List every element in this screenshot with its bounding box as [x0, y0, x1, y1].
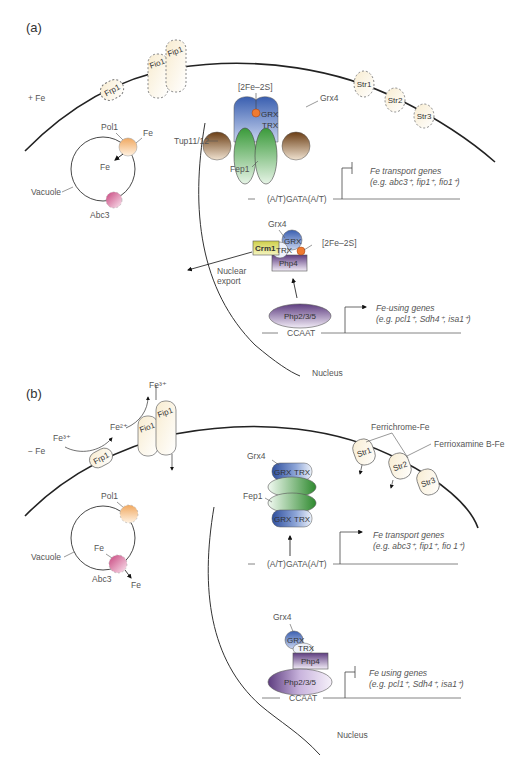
pol1-transporter-a	[119, 138, 137, 156]
grx4-label-a2: Grx4	[268, 219, 287, 229]
fe-s-cluster-icon	[252, 109, 260, 117]
php4-complex-a: Php4 Crm1 GRX TRX	[253, 230, 307, 271]
str3-transporter: Str3	[414, 104, 434, 128]
gata-motif-a: (A/T)GATA(A/T)	[267, 194, 327, 204]
abc3-transporter-b	[109, 555, 127, 573]
fep1-label-b: Fep1	[243, 491, 263, 501]
nucleus-label-b: Nucleus	[337, 730, 368, 740]
pol1-label-a: Pol1	[101, 122, 118, 132]
fe-outside-label-a: Fe	[143, 128, 153, 138]
fe2-ion-label: Fe²⁺	[110, 422, 128, 432]
vacuole-label-b: Vacuole	[31, 552, 61, 562]
gata-motif-b: (A/T)GATA(A/T)	[267, 559, 327, 569]
plasma-membrane-b	[25, 426, 478, 528]
php4-complex-b: GRX TRX Php4	[285, 631, 328, 669]
abc3-transporter-a	[106, 192, 122, 208]
svg-text:TRX: TRX	[294, 515, 311, 524]
condition-plus-fe: + Fe	[28, 93, 46, 103]
repression-symbol-b	[345, 672, 355, 698]
vacuole-label-a: Vacuole	[31, 187, 61, 197]
activation-arrow-a	[345, 307, 366, 333]
fe-using-examples-a: (e.g. pcl1⁺, Sdh4⁺, isa1⁺)	[376, 314, 471, 324]
nuclear-envelope-b	[208, 507, 320, 755]
fe-transport-genes-a: Fe transport genes	[370, 166, 442, 176]
condition-minus-fe: − Fe	[28, 446, 46, 456]
svg-text:Php2/3/5: Php2/3/5	[284, 312, 317, 321]
abc3-label-a: Abc3	[90, 210, 110, 220]
svg-text:TRX: TRX	[294, 468, 311, 477]
svg-text:Php4: Php4	[279, 259, 298, 268]
fe-transport-examples-b: (e.g. abc3⁺, fip1⁺, fio 1⁺)	[373, 541, 465, 551]
fio1-transporter-b: Fio1	[138, 416, 158, 456]
cluster-label-a: [2Fe–2S]	[238, 82, 273, 92]
panel-b: (b) − Fe Fe³⁺ Fe²⁺ Fe³⁺ Frp1 Fio1 Fip1	[25, 380, 505, 755]
nucleus-label-a: Nucleus	[312, 368, 343, 378]
svg-text:TRX: TRX	[298, 644, 315, 653]
svg-text:TRX: TRX	[262, 121, 279, 130]
fe-out-label-b: Fe	[131, 580, 141, 590]
abc3-label-b: Abc3	[92, 574, 112, 584]
fio1-transporter: Fio1	[148, 54, 168, 98]
fe3-ion-label: Fe³⁺	[53, 433, 71, 443]
svg-text:GRX: GRX	[284, 237, 302, 246]
repression-symbol-a	[342, 168, 352, 199]
fep1-label-a: Fep1	[230, 164, 250, 174]
svg-text:Crm1: Crm1	[255, 244, 276, 253]
str1-transporter: Str1	[354, 71, 374, 97]
fep1-complex-a: GRX TRX	[203, 97, 310, 184]
svg-text:Str2: Str2	[388, 96, 403, 105]
fe3-top-label: Fe³⁺	[149, 380, 167, 390]
tup11-12-right	[282, 132, 310, 160]
panel-a: (a) + Fe Frp1 Fio1 Fip1 Str1 Str2	[25, 20, 495, 378]
svg-text:Php4: Php4	[301, 657, 320, 666]
fe-using-genes-a: Fe-using genes	[376, 303, 435, 313]
grx4-label-b2: Grx4	[273, 612, 292, 622]
svg-text:GRX: GRX	[261, 110, 279, 119]
iron-regulation-diagram: (a) + Fe Frp1 Fio1 Fip1 Str1 Str2	[0, 0, 523, 781]
svg-text:GRX: GRX	[274, 515, 292, 524]
ccaat-motif-a: CCAAT	[287, 328, 315, 338]
fep1-right	[255, 128, 277, 184]
activation-arrow-b	[340, 532, 362, 564]
ccaat-motif-b: CCAAT	[289, 693, 317, 703]
ferrioxamine-label: Ferrioxamine B-Fe	[434, 439, 505, 449]
svg-text:export: export	[217, 276, 241, 286]
fe-using-examples-b: (e.g. pcl1⁺, Sdh4⁺, isa1⁺)	[369, 679, 464, 689]
panel-b-label: (b)	[26, 386, 42, 401]
pol1-transporter-b	[120, 505, 138, 523]
cluster-label-a2: [2Fe–2S]	[322, 238, 357, 248]
ferrichrome-label: Ferrichrome-Fe	[371, 422, 430, 432]
str3-transporter-b: Str3	[414, 466, 442, 497]
fep1-complex-b: GRX TRX GRX TRX	[268, 463, 316, 527]
fe-transport-genes-b: Fe transport genes	[373, 530, 445, 540]
svg-text:Str3: Str3	[417, 112, 432, 121]
str2-transporter: Str2	[385, 88, 405, 112]
fip1-transporter: Fip1	[166, 40, 186, 92]
fe-s-cluster-icon-a2	[297, 247, 305, 255]
nuclear-export-label: Nuclear	[217, 266, 246, 276]
fe-inside-label-b: Fe	[94, 543, 104, 553]
grx4-label-a: Grx4	[320, 93, 339, 103]
fe-inside-label-a: Fe	[100, 162, 110, 172]
panel-a-label: (a)	[26, 20, 42, 35]
fe-transport-examples-a: (e.g. abc3⁺, fip1⁺, fio1⁺)	[370, 177, 460, 187]
frp1-transporter: Frp1	[97, 76, 127, 103]
svg-text:Php2/3/5: Php2/3/5	[284, 678, 317, 687]
tup-label-a: Tup11/12	[174, 136, 209, 146]
svg-text:TRX: TRX	[276, 246, 293, 255]
svg-text:Str1: Str1	[357, 80, 372, 89]
grx4-label-b: Grx4	[247, 451, 266, 461]
fep1-left	[234, 128, 256, 184]
fe-using-genes-b: Fe using genes	[369, 668, 428, 678]
fip1-transporter-b: Fip1	[156, 401, 176, 455]
pol1-label-b: Pol1	[101, 491, 118, 501]
svg-text:GRX: GRX	[274, 468, 292, 477]
recruit-arrow-a	[293, 279, 297, 298]
fe-release-arrow	[125, 570, 131, 578]
